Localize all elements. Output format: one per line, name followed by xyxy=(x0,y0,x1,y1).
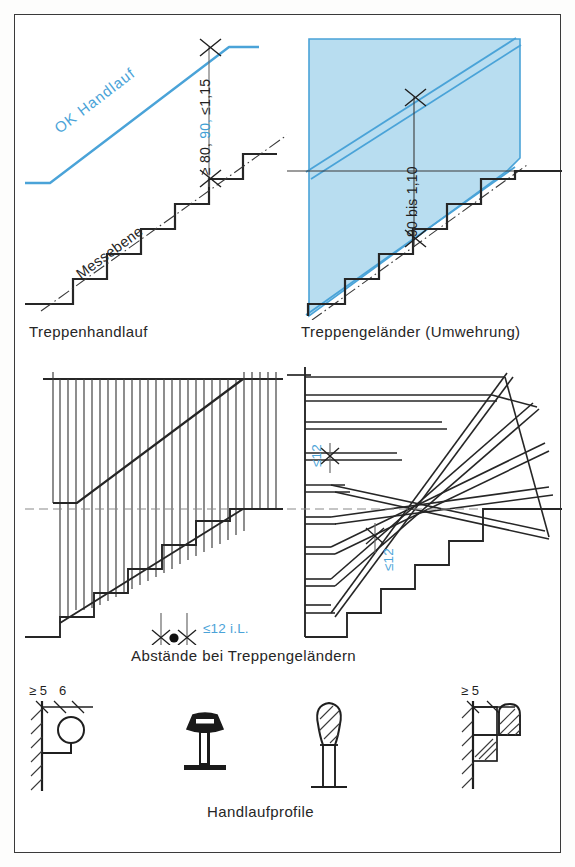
guard-height-dimension: 90 bis 1,10 xyxy=(404,166,420,237)
guard-height-dimension-text: 90 bis 1,10 xyxy=(404,166,420,237)
profile-oval-knob-handrail xyxy=(311,703,347,787)
panel-treppenhandlauf: OK Handlauf Messebene ≥ 80, 90, ≤1,15 xyxy=(15,15,287,320)
right-detail-dim-a: ≥ 5 xyxy=(461,683,479,698)
gap-label-rail-upper: ≤12 xyxy=(309,444,324,467)
vertical-balusters-drawing xyxy=(15,355,287,645)
left-detail-dim-a: ≥ 5 xyxy=(29,683,47,698)
caption-treppenhandlauf: Treppenhandlauf xyxy=(29,323,148,340)
panel-treppengelaender: 90 bis 1,10 xyxy=(287,15,562,320)
caption-abstaende: Abstände bei Treppengeländern xyxy=(131,647,356,664)
right-detail-dim-a-text: ≥ 5 xyxy=(461,683,479,698)
horizontal-rails-drawing xyxy=(287,355,562,645)
left-detail-dim-b: 6 xyxy=(59,683,66,698)
caption-treppengelaender-text: Treppengeländer (Umwehrung) xyxy=(301,323,521,340)
gap-label-baluster: ≤12 i.L. xyxy=(203,621,249,636)
treppenhandlauf-drawing xyxy=(15,15,287,320)
caption-treppengelaender: Treppengeländer (Umwehrung) xyxy=(301,323,521,340)
dimension-suffix: ≤1,15 xyxy=(197,79,213,115)
figure-page: OK Handlauf Messebene ≥ 80, 90, ≤1,15 Tr… xyxy=(0,0,575,867)
gap-label-rail-lower: ≤12 xyxy=(381,548,396,571)
caption-handlaufprofile-text: Handlaufprofile xyxy=(207,803,314,820)
horizontal-rail-group xyxy=(305,377,505,613)
left-post xyxy=(287,367,311,637)
gap-dimension-detail xyxy=(152,613,196,645)
handlaufprofile-drawing xyxy=(15,679,562,809)
panel-vertical-balusters: ≤12 i.L. xyxy=(15,355,287,645)
caption-treppenhandlauf-text: Treppenhandlauf xyxy=(29,323,148,340)
caption-abstaende-text: Abstände bei Treppengeländern xyxy=(131,647,356,664)
caption-handlaufprofile: Handlaufprofile xyxy=(207,803,314,820)
panel-horizontal-rails: ≤12 ≤12 xyxy=(287,355,562,645)
gap-label-rail-upper-text: ≤12 xyxy=(309,444,324,467)
gap-label-rail-lower-text: ≤12 xyxy=(381,548,396,571)
gap-label-baluster-text: ≤12 i.L. xyxy=(203,621,249,636)
profile-flared-top-handrail xyxy=(184,713,226,770)
left-detail-dim-a-text: ≥ 5 xyxy=(29,683,47,698)
stair-outline xyxy=(25,154,277,304)
dimension-prefix: ≥ 80, xyxy=(197,143,213,175)
stair-outline xyxy=(305,509,562,637)
stair-nosing-line xyxy=(60,509,243,623)
treppengelaender-drawing xyxy=(287,15,562,320)
profile-wall-mounted-round-handrail xyxy=(31,701,93,791)
dimension-highlight: 90, xyxy=(197,119,213,139)
left-detail-dim-b-text: 6 xyxy=(59,683,66,698)
baluster-group xyxy=(53,372,276,617)
diagonal-rail-group xyxy=(331,373,553,617)
figure-frame: OK Handlauf Messebene ≥ 80, 90, ≤1,15 Tr… xyxy=(14,14,561,853)
handrail-height-dimension: ≥ 80, 90, ≤1,15 xyxy=(197,79,213,175)
profile-wall-bracket-handrail xyxy=(462,701,520,789)
panel-handlaufprofile: ≥ 5 6 ≥ 5 xyxy=(15,679,562,809)
